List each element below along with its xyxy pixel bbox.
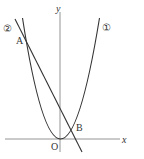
- y-axis-label: y: [55, 3, 61, 14]
- line-marker-label: ②: [3, 23, 12, 34]
- point-b-label: B: [76, 122, 83, 133]
- line-curve: [15, 19, 82, 152]
- parabola-marker-label: ①: [102, 22, 111, 33]
- parabola-curve: [23, 18, 100, 139]
- point-a-label: A: [16, 35, 24, 46]
- coordinate-graph: y x O A B ① ②: [0, 0, 144, 159]
- origin-label: O: [51, 141, 58, 152]
- x-axis-label: x: [121, 134, 127, 145]
